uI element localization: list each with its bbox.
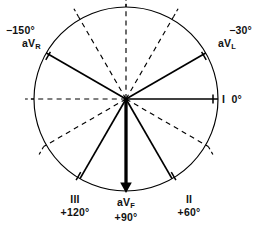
label-lead-I: I 0° xyxy=(222,93,258,106)
label-avf-subscript: F xyxy=(130,201,135,210)
dashed-axis-30 xyxy=(126,99,208,147)
circle-ticks-group xyxy=(46,52,213,180)
solid-axes-group xyxy=(46,53,218,179)
label-avl-angle: −30° xyxy=(178,24,252,37)
dashed-tick-30 xyxy=(208,147,213,155)
label-avr-angle: −150° xyxy=(6,24,80,37)
label-avf-angle: +90° xyxy=(96,211,156,224)
lead-axis-aVL xyxy=(126,53,206,99)
label-avl: −30° aVL xyxy=(178,24,252,51)
label-lead-II: II +60° xyxy=(160,193,218,218)
label-lead-II-name: II xyxy=(160,193,218,206)
label-avl-lead: aVL xyxy=(178,37,252,52)
dashed-axis-minus-120 xyxy=(79,17,127,99)
label-lead-I-angle: 0° xyxy=(231,93,241,105)
hexaxial-reference-diagram: −150° aVR −30° aVL I 0° III +120° aVF +9… xyxy=(0,0,258,237)
lead-axis-II xyxy=(126,99,172,179)
lead-axis-aVF-group xyxy=(120,99,132,193)
label-avf-lead: aVF xyxy=(96,196,156,211)
dashed-tick-150 xyxy=(39,147,44,155)
dashed-tick-minus60 xyxy=(174,9,179,17)
label-avf: aVF +90° xyxy=(96,196,156,223)
dashed-axis-minus-60 xyxy=(126,17,174,99)
dashed-axis-150 xyxy=(44,99,126,147)
dashed-tick-minus120 xyxy=(74,9,79,17)
label-avr-lead: aVR xyxy=(6,37,80,52)
label-avr-subscript: R xyxy=(35,42,41,51)
label-avr: −150° aVR xyxy=(6,24,80,51)
lead-axis-III xyxy=(80,99,126,179)
label-avl-subscript: L xyxy=(231,42,236,51)
label-lead-II-angle: +60° xyxy=(160,206,218,219)
lead-axis-aVR xyxy=(46,53,126,99)
